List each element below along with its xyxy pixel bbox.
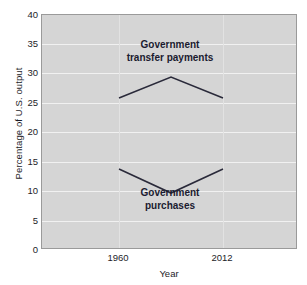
annotation-government-transfer-payments: Government transfer payments bbox=[90, 39, 250, 64]
line-government-transfer-payments bbox=[119, 77, 223, 98]
y-tick-0: 0 bbox=[0, 245, 38, 255]
y-tick-5: 5 bbox=[0, 216, 38, 226]
y-tick-40: 40 bbox=[0, 10, 38, 20]
annotation-transfer-line1: Government bbox=[141, 39, 200, 50]
annotation-transfer-line2: transfer payments bbox=[127, 52, 214, 63]
annotation-purchases-line2: purchases bbox=[145, 200, 195, 211]
x-tick-2012: 2012 bbox=[192, 252, 252, 263]
annotation-purchases-line1: Government bbox=[141, 187, 200, 198]
x-axis-label: Year bbox=[41, 268, 297, 279]
x-tick-1960: 1960 bbox=[88, 252, 148, 263]
annotation-government-purchases: Government purchases bbox=[90, 187, 250, 212]
plot-area: Government transfer payments Government … bbox=[41, 14, 297, 249]
chart-figure: 40 35 30 25 20 15 10 5 0 Percentage of U… bbox=[0, 0, 307, 285]
y-axis-label: Percentage of U.S. output bbox=[13, 44, 24, 204]
